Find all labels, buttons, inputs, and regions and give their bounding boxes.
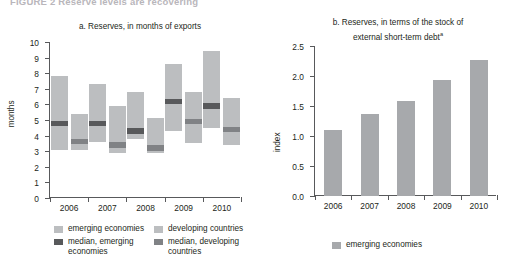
y-axis-tick: 10 (45, 42, 50, 43)
panel-a-plot-area: 01234567891020062007200820092010 (49, 42, 240, 198)
y-axis-tick: 4 (45, 136, 50, 137)
range-bar (165, 64, 182, 131)
panel-b-title-line-1: b. Reserves, in terms of the stock of (333, 18, 464, 27)
legend-item-emerging-economies: emerging economies (332, 240, 512, 250)
median-marker (89, 121, 106, 126)
x-axis-tick-label: 2007 (360, 202, 379, 210)
x-axis-tick-label: 2010 (469, 202, 488, 210)
legend-item-median-developing-countries: median, developing countries (154, 237, 258, 258)
y-axis-tick-label: 0.0 (292, 193, 304, 201)
y-axis-tick: 3 (45, 151, 50, 152)
y-axis-tick: 2.0 (310, 76, 315, 77)
range-bar (223, 98, 240, 145)
y-axis-tick: 1.0 (310, 136, 315, 137)
x-axis-tick-label: 2009 (433, 202, 452, 210)
value-bar (433, 80, 451, 196)
panel-b-plot-area: 0.00.51.01.52.02.520062007200820092010 (314, 46, 496, 196)
legend-swatch-icon (332, 242, 341, 249)
median-marker (185, 119, 202, 124)
y-axis-tick: 2.5 (310, 46, 315, 47)
y-axis-tick-label: 1 (34, 179, 39, 187)
value-bar (324, 130, 342, 196)
legend-swatch-icon (154, 239, 163, 246)
y-axis-tick-label: 2.0 (292, 73, 304, 81)
y-axis-tick-label: 2.5 (292, 43, 304, 51)
x-axis-tick-label: 2009 (174, 204, 193, 212)
legend-label: median, developing countries (168, 237, 239, 256)
value-bar (397, 101, 415, 196)
y-axis-tick: 1.5 (310, 106, 315, 107)
x-axis-tick-label: 2010 (213, 204, 232, 212)
y-axis-tick: 5 (45, 120, 50, 121)
legend-swatch-icon (54, 226, 63, 233)
y-axis-tick-label: 8 (34, 70, 39, 78)
panel-b-title-footnote-marker: a (440, 31, 443, 37)
panel-b-title: b. Reserves, in terms of the stock of ex… (282, 18, 514, 43)
legend-label: emerging economies (68, 224, 144, 233)
x-axis-tick (351, 195, 352, 200)
y-axis-tick-label: 1.5 (292, 103, 304, 111)
range-bar (203, 51, 220, 127)
x-axis-tick (424, 195, 425, 200)
panel-a-legend-column-1: emerging economies median, emerging econ… (54, 224, 150, 260)
y-axis-tick-label: 7 (34, 86, 39, 94)
legend-label: median, emerging economies (68, 237, 134, 256)
median-marker (109, 142, 126, 147)
y-axis-tick-label: 5 (34, 117, 39, 125)
legend-label: emerging economies (346, 240, 422, 249)
x-axis-tick (388, 195, 389, 200)
panel-a-y-axis-label: months (7, 101, 16, 128)
x-axis-tick-label: 2008 (397, 202, 416, 210)
x-axis-tick-label: 2008 (136, 204, 155, 212)
median-marker (127, 128, 144, 133)
median-marker (51, 121, 68, 126)
x-axis-tick (241, 197, 242, 202)
median-marker (223, 127, 240, 132)
panel-b-title-line-2: external short-term debt (353, 32, 440, 41)
x-axis-tick-label: 2007 (98, 204, 117, 212)
value-bar (361, 114, 379, 196)
median-marker (203, 103, 220, 108)
y-axis-tick: 2 (45, 167, 50, 168)
y-axis-tick-label: 0.5 (292, 163, 304, 171)
x-axis-tick (497, 195, 498, 200)
legend-item-developing-countries: developing countries (154, 224, 258, 234)
y-axis-tick: 8 (45, 73, 50, 74)
y-axis-tick-label: 3 (34, 148, 39, 156)
x-axis-tick (126, 197, 127, 202)
y-axis-tick-label: 6 (34, 101, 39, 109)
x-axis-tick-label: 2006 (324, 202, 343, 210)
legend-swatch-icon (154, 226, 163, 233)
legend-label: developing countries (168, 224, 243, 233)
y-axis-tick-label: 2 (34, 164, 39, 172)
range-bar (89, 84, 106, 142)
range-bar (51, 76, 68, 149)
range-bar (185, 92, 202, 143)
y-axis-tick: 1 (45, 182, 50, 183)
value-bar (470, 60, 488, 196)
panel-a-title: a. Reserves, in months of exports (26, 22, 254, 33)
median-marker (147, 145, 164, 150)
x-axis-tick (88, 197, 89, 202)
panel-a: a. Reserves, in months of exports months… (0, 0, 262, 271)
y-axis-tick: 7 (45, 89, 50, 90)
y-axis-tick-label: 4 (34, 132, 39, 140)
median-marker (165, 99, 182, 104)
figure-root: FIGURE 2 Reserve levels are recovering a… (0, 0, 525, 271)
x-axis-tick (165, 197, 166, 202)
x-axis-tick (50, 197, 51, 202)
legend-swatch-icon (54, 239, 63, 246)
y-axis-tick-label: 1.0 (292, 133, 304, 141)
x-axis-tick-label: 2006 (60, 204, 79, 212)
x-axis-tick (203, 197, 204, 202)
panel-b-y-axis-label: index (273, 133, 282, 153)
legend-item-emerging-economies: emerging economies (54, 224, 150, 234)
y-axis-tick-label: 9 (34, 54, 39, 62)
legend-item-median-emerging-economies: median, emerging economies (54, 237, 150, 258)
y-axis-tick-label: 0 (34, 195, 39, 203)
panel-a-legend-column-2: developing countries median, developing … (154, 224, 258, 260)
panel-b-legend: emerging economies (332, 240, 512, 253)
x-axis-tick (461, 195, 462, 200)
median-marker (71, 139, 88, 144)
y-axis-tick: 0.5 (310, 166, 315, 167)
